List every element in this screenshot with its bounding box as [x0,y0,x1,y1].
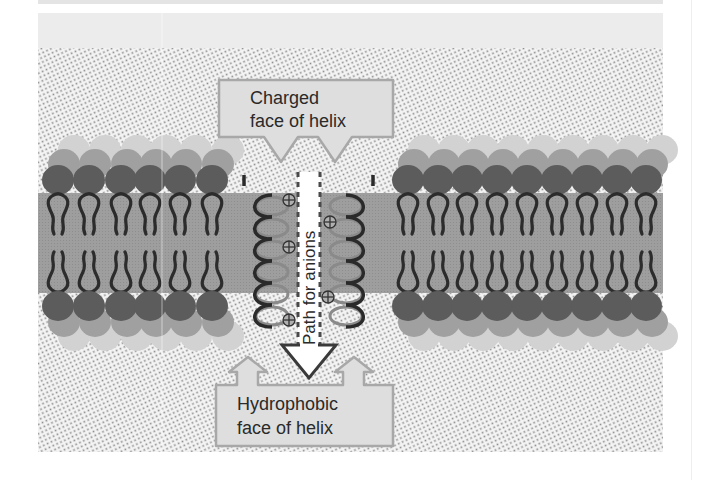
membrane-diagram: Path for anions Charged face of helix Hy… [0,0,701,480]
hydrophobic-label-line1: Hydrophobic [237,394,338,414]
membrane-core [38,193,663,293]
path-label: Path for anions [300,231,319,345]
charged-label-line2: face of helix [250,111,346,131]
hydrophobic-label-line2: face of helix [237,418,333,438]
charged-label-line1: Charged [250,88,319,108]
